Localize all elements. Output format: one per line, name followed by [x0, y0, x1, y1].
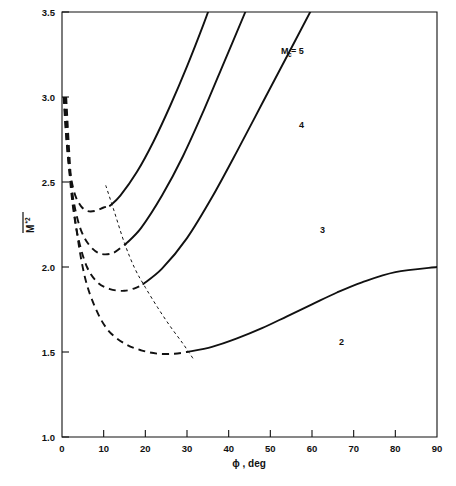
x-tick-label: 50: [265, 443, 276, 454]
curve-annotations: M c = 5 4 3 2: [281, 46, 344, 347]
solid-branch: [127, 0, 254, 243]
y-axis-tick-labels: 1.01.52.02.53.03.5: [42, 7, 56, 443]
curve-mc-4: [64, 0, 254, 254]
y-tick-label: 2.5: [42, 177, 56, 188]
solid-branch: [110, 0, 214, 206]
dashed-branch: [64, 97, 127, 254]
x-tick-label: 90: [432, 443, 443, 454]
x-tick-label: 70: [348, 443, 359, 454]
chart-canvas: 1.01.52.02.53.03.5 0102030405060708090 M…: [0, 0, 456, 486]
y-axis-title-superscript: *2: [24, 217, 31, 224]
plot-frame: [62, 12, 437, 437]
label-mc-4: 4: [299, 120, 304, 130]
x-tick-label: 0: [59, 443, 64, 454]
curve-mc-3: [65, 0, 320, 291]
label-mc-5-equals: = 5: [291, 46, 304, 56]
y-tick-label: 1.5: [42, 347, 56, 358]
y-axis-title-base: M: [25, 225, 36, 233]
y-axis-title: M *2: [23, 212, 36, 233]
axis-border: [62, 12, 437, 437]
x-axis-ticks: [104, 430, 396, 437]
x-tick-label: 30: [182, 443, 193, 454]
curve-mc-5: [64, 0, 214, 211]
dashed-branch: [66, 97, 187, 354]
chart-figure: 1.01.52.02.53.03.5 0102030405060708090 M…: [0, 0, 456, 486]
y-axis-ticks: [62, 12, 69, 437]
y-tick-label: 3.0: [42, 92, 55, 103]
x-tick-label: 10: [98, 443, 109, 454]
x-tick-label: 80: [390, 443, 401, 454]
curve-locus: [106, 185, 194, 358]
x-tick-label: 20: [140, 443, 151, 454]
curve-mc-2: [66, 97, 437, 354]
data-curves: [64, 0, 437, 359]
solid-branch: [187, 267, 437, 352]
x-axis-tick-labels: 0102030405060708090: [59, 443, 442, 454]
x-tick-label: 40: [223, 443, 234, 454]
y-tick-label: 2.0: [42, 262, 55, 273]
y-tick-label: 3.5: [42, 7, 56, 18]
x-axis-title: ϕ , deg: [232, 458, 266, 469]
label-mc-2: 2: [339, 337, 344, 347]
y-tick-label: 1.0: [42, 432, 55, 443]
locus-curve: [106, 185, 194, 358]
label-mc-5-group: M c = 5: [281, 46, 304, 58]
x-tick-label: 60: [307, 443, 318, 454]
label-mc-3: 3: [320, 225, 325, 235]
